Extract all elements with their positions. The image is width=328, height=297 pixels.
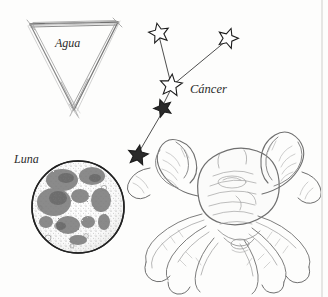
crab-mouthparts	[218, 230, 260, 253]
star-4	[152, 96, 174, 118]
label-cancer: Cáncer	[190, 82, 227, 97]
water-triangle-icon	[27, 18, 122, 118]
star-1	[147, 21, 170, 44]
crab-engraving	[127, 132, 321, 294]
crab-legs-left	[145, 214, 218, 294]
plate-right-edge	[321, 0, 323, 297]
star-3	[159, 73, 183, 96]
star-5	[127, 143, 150, 165]
label-luna: Luna	[14, 152, 39, 167]
crab-legs-right	[240, 216, 310, 294]
crab-carapace	[198, 148, 280, 225]
astrology-plate: Agua Cáncer Luna	[0, 0, 328, 297]
plate-artwork	[0, 0, 328, 297]
moon-disc	[32, 161, 124, 253]
label-agua: Agua	[55, 36, 80, 51]
